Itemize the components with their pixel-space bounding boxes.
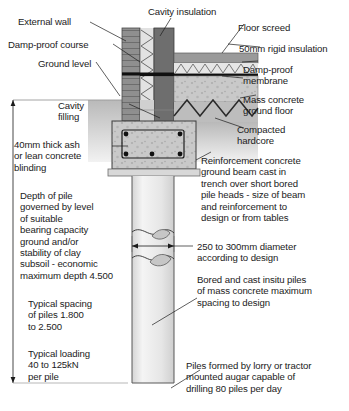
label-typical-spacing: Typical spacing of piles 1.800 to 2.500	[28, 298, 92, 332]
damp-proof-course	[122, 73, 174, 76]
label-rigid-insulation: 50mm rigid insulation	[239, 43, 328, 54]
label-cavity-insulation: Cavity insulation	[148, 6, 216, 17]
ground-beam	[112, 121, 196, 169]
bored-pile-shaft	[132, 176, 174, 383]
label-ground-level: Ground level	[38, 58, 91, 69]
label-typical-loading: Typical loading 40 to 125kN per pile	[28, 348, 90, 382]
label-pile-diameter: 250 to 300mm diameter according to desig…	[197, 241, 296, 264]
figure-canvas: External wall Cavity insulation Floor sc…	[0, 0, 349, 411]
label-blinding: 40mm thick ash or lean concrete blinding	[14, 139, 81, 173]
label-mass-concrete-ground-floor: Mass concrete ground floor	[243, 94, 304, 117]
label-cavity-filling: Cavity filling	[58, 100, 84, 123]
label-external-wall: External wall	[18, 16, 71, 27]
label-ground-beam: Reinforcement concrete ground beam cast …	[201, 155, 305, 223]
label-bored-piles: Bored and cast insitu piles of mass conc…	[197, 274, 312, 308]
label-depth-of-pile: Depth of pile governed by level of suita…	[20, 190, 113, 281]
blinding-layer	[108, 169, 200, 176]
label-damp-proof-membrane: Damp-proof membrane	[243, 64, 293, 87]
label-damp-proof-course: Damp-proof course	[8, 39, 88, 50]
label-floor-screed: Floor screed	[238, 22, 290, 33]
label-piles-formed: Piles formed by lorry or tractor mounted…	[186, 360, 311, 394]
label-compacted-hardcore: Compacted hardcore	[237, 124, 285, 147]
